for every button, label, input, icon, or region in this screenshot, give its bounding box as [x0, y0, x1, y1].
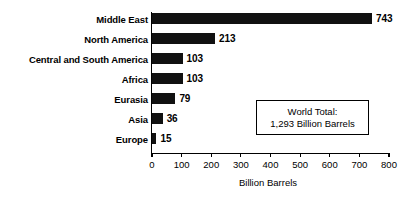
value-label-middle-east: 743 — [376, 13, 392, 24]
x-axis-tick-label-300: 300 — [233, 159, 249, 170]
bar-africa — [152, 73, 183, 84]
x-axis-tick-label-0: 0 — [149, 159, 154, 170]
bar-chart: Middle East North America Central and So… — [0, 0, 412, 198]
x-axis-tick-label-200: 200 — [203, 159, 219, 170]
category-label-eurasia: Eurasia — [114, 94, 148, 105]
x-axis-title: Billion Barrels — [0, 177, 412, 188]
bar-north-america — [152, 33, 215, 44]
x-axis-tick-500 — [300, 153, 301, 157]
bar-asia — [152, 113, 163, 124]
x-axis-tick-label-400: 400 — [263, 159, 279, 170]
category-label-middle-east: Middle East — [96, 14, 148, 25]
x-axis-tick-label-500: 500 — [292, 159, 308, 170]
x-axis-tick-label-100: 100 — [174, 159, 190, 170]
x-axis-tick-0 — [151, 153, 152, 157]
x-axis-tick-200 — [211, 153, 212, 157]
category-label-central-and-south-america: Central and South America — [29, 54, 148, 65]
value-label-europe: 15 — [160, 133, 171, 144]
bar-europe — [152, 133, 156, 144]
x-axis-title-text: Billion Barrels — [239, 177, 297, 188]
x-axis-tick-600 — [329, 153, 330, 157]
value-label-asia: 36 — [167, 113, 178, 124]
world-total-value: 1,293 Billion Barrels — [270, 118, 355, 130]
value-label-north-america: 213 — [219, 33, 235, 44]
x-axis-tick-label-600: 600 — [322, 159, 338, 170]
value-label-eurasia: 79 — [179, 93, 190, 104]
value-label-africa: 103 — [187, 73, 203, 84]
x-axis-tick-100 — [181, 153, 182, 157]
bar-middle-east — [152, 13, 372, 24]
bar-central-and-south-america — [152, 53, 183, 64]
world-total-label: World Total: — [288, 106, 338, 118]
category-label-asia: Asia — [128, 114, 148, 125]
category-label-africa: Africa — [122, 74, 148, 85]
y-axis-line — [151, 12, 152, 154]
x-axis-tick-700 — [359, 153, 360, 157]
value-label-central-and-south-america: 103 — [187, 53, 203, 64]
category-label-north-america: North America — [84, 34, 148, 45]
x-axis-tick-800 — [388, 153, 389, 157]
x-axis-tick-300 — [240, 153, 241, 157]
x-axis-tick-400 — [270, 153, 271, 157]
category-label-europe: Europe — [116, 134, 148, 145]
world-total-annotation-box: World Total: 1,293 Billion Barrels — [256, 100, 369, 135]
bar-eurasia — [152, 93, 175, 104]
x-axis-tick-label-800: 800 — [381, 159, 397, 170]
x-axis-tick-label-700: 700 — [351, 159, 367, 170]
